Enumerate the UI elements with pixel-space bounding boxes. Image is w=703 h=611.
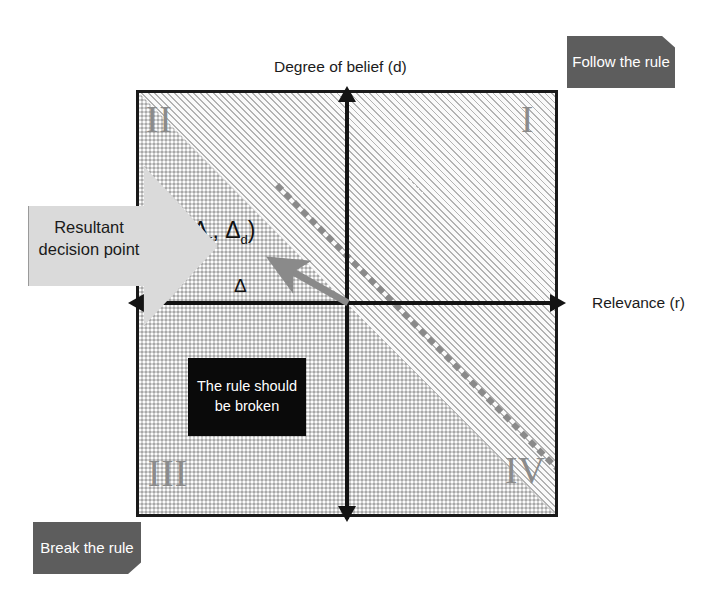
y-axis-top-arrowhead-icon <box>338 86 356 102</box>
tag-break-label: Break the rule <box>40 538 133 558</box>
x-axis-label: Relevance (r) <box>592 294 685 312</box>
coord-sub-d: d <box>241 232 248 247</box>
resultant-decision-point-label: Resultant decision point <box>34 216 144 261</box>
y-axis-label: Degree of belief (d) <box>274 58 407 76</box>
break-rule-callout-box: The rule should be broken <box>188 358 306 436</box>
y-axis-bottom-arrowhead-icon <box>338 506 356 522</box>
tag-break-the-rule: Break the rule <box>33 522 141 574</box>
figure-canvas: Degree of belief (d) Relevance (r) II I … <box>0 0 703 611</box>
delta-symbol-label: Δ <box>234 276 247 295</box>
tag-follow-label: Follow the rule <box>572 52 670 72</box>
resultant-decision-point-callout: Resultant decision point <box>28 166 218 326</box>
y-axis-line <box>345 90 349 519</box>
break-rule-callout-text: The rule should be broken <box>188 377 306 416</box>
quadrant-label-i: I <box>521 101 534 138</box>
tag-follow-the-rule: Follow the rule <box>567 36 675 88</box>
x-axis-right-arrowhead-icon <box>550 294 566 312</box>
quadrant-label-iii: III <box>148 455 188 492</box>
quadrant-label-iv: IV <box>505 452 546 489</box>
quadrant-label-ii: II <box>146 101 173 138</box>
coord-close: ) <box>248 217 256 243</box>
